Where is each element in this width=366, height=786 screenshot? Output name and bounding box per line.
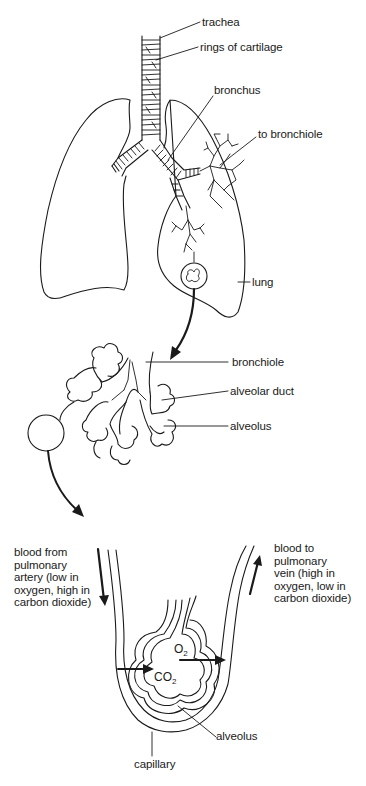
- label-bronchiole: bronchiole: [232, 356, 284, 369]
- label-trachea: trachea: [202, 16, 240, 29]
- label-lung: lung: [252, 276, 273, 289]
- label-bronchus: bronchus: [214, 84, 261, 97]
- label-blood-from-pulmonary-artery: blood from pulmonary artery (low in oxyg…: [14, 546, 91, 609]
- respiratory-diagram: trachea rings of cartilage bronchus to b…: [0, 0, 366, 786]
- label-rings-of-cartilage: rings of cartilage: [200, 41, 283, 54]
- lung-to-bronchiole-arrow: [176, 289, 194, 350]
- left-lung-outline: [41, 99, 130, 299]
- label-to-bronchiole: to bronchiole: [258, 128, 323, 141]
- lung-alveolus-circle: [181, 263, 207, 289]
- capillary-loop-drawing: [108, 546, 254, 732]
- right-lung-outline: [158, 100, 245, 317]
- magnified-alveolus-circle: [28, 415, 64, 451]
- label-blood-to-pulmonary-vein: blood to pulmonary vein (high in oxygen,…: [274, 542, 351, 605]
- label-o2: O2: [174, 642, 188, 658]
- right-bronchus-drawing: [152, 140, 200, 210]
- alveolus-to-capillary-arrow: [48, 451, 78, 511]
- left-bronchus-drawing: [112, 140, 148, 176]
- blood-in-arrow: [98, 549, 104, 600]
- diagram-drawing: [0, 0, 366, 786]
- label-alveolar-duct: alveolar duct: [230, 385, 294, 398]
- label-alveolus-lower: alveolus: [216, 730, 257, 743]
- label-alveolus-upper: alveolus: [230, 420, 271, 433]
- label-co2: CO2: [154, 670, 176, 686]
- trachea-drawing: [142, 36, 160, 140]
- label-capillary: capillary: [134, 758, 175, 771]
- blood-out-arrow: [250, 562, 258, 594]
